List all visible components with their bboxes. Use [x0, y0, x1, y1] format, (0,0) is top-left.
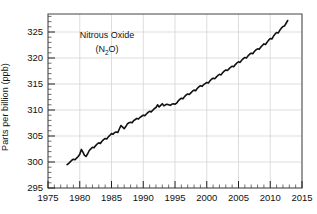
x-tick-label: 2000 — [196, 192, 217, 203]
x-tick-label: 2005 — [228, 192, 249, 203]
x-tick-label: 2010 — [260, 192, 281, 203]
y-tick-label: 325 — [27, 26, 43, 37]
annotation-line-1: Nitrous Oxide — [80, 30, 135, 40]
y-axis-tick-labels: 295 300 305 310 315 320 325 — [27, 26, 43, 193]
y-axis-major-ticks — [48, 32, 55, 188]
x-tick-label: 1995 — [164, 192, 185, 203]
y-tick-label: 305 — [27, 130, 43, 141]
y-tick-label: 315 — [27, 78, 43, 89]
x-axis-tick-labels: 1975 1980 1985 1990 1995 2000 2005 2010 … — [37, 192, 312, 203]
annotation-formula: (N2O) — [95, 44, 118, 56]
annotation-formula-close: O) — [109, 44, 119, 54]
n2o-data-line — [67, 21, 288, 165]
series-annotation: Nitrous Oxide (N2O) — [80, 30, 135, 56]
y-tick-label: 300 — [27, 156, 43, 167]
x-tick-label: 2015 — [291, 192, 312, 203]
y-tick-label: 320 — [27, 52, 43, 63]
x-tick-label: 1975 — [37, 192, 58, 203]
x-tick-label: 1990 — [133, 192, 154, 203]
annotation-formula-open: (N — [95, 44, 105, 54]
nitrous-oxide-chart-figure: Parts per billion (ppb) — [0, 0, 317, 214]
x-tick-label: 1985 — [101, 192, 122, 203]
x-tick-label: 1980 — [69, 192, 90, 203]
y-tick-label: 310 — [27, 104, 43, 115]
chart-plot-area: 295 300 305 310 315 320 325 1975 1980 19… — [0, 0, 317, 214]
